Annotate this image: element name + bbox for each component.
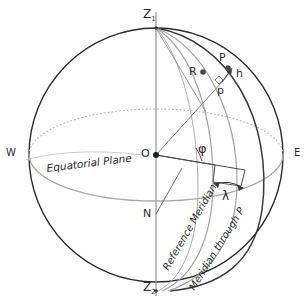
label-pole-south-subscript: 2: [151, 288, 155, 296]
point-p-dot: [225, 65, 231, 71]
label-east: E: [294, 148, 300, 158]
label-height: h: [236, 68, 243, 79]
label-nadir: N: [143, 208, 151, 219]
label-point-r: R: [189, 66, 197, 77]
pole-to-r-line: [156, 28, 206, 112]
label-point-p-lower: p: [217, 85, 224, 96]
plane-edge-right: [241, 170, 245, 186]
label-point-p-upper: P: [219, 52, 226, 63]
nadir-to-plane-line: [156, 168, 182, 214]
pole-north-dot: [154, 26, 158, 30]
label-west: W: [6, 148, 16, 158]
label-pole-south-letter: Z: [143, 280, 151, 294]
diagram-canvas: Z1 Z2 W E O N P R p h φ λ Equatorial Pla…: [0, 0, 308, 304]
label-latitude-phi: φ: [198, 142, 207, 155]
sphere-diagram-svg: [0, 0, 308, 304]
label-pole-north: Z1: [143, 8, 156, 23]
radius-op-line: [156, 82, 222, 155]
label-pole-north-subscript: 1: [151, 15, 155, 23]
label-center: O: [141, 148, 150, 159]
label-pole-north-letter: Z: [143, 7, 151, 21]
label-pole-south: Z2: [143, 281, 156, 296]
label-longitude-lambda: λ: [222, 190, 229, 202]
center-point-dot: [153, 152, 159, 158]
point-r-dot: [200, 69, 206, 75]
plane-edge-o-to-meridian: [156, 155, 215, 165]
